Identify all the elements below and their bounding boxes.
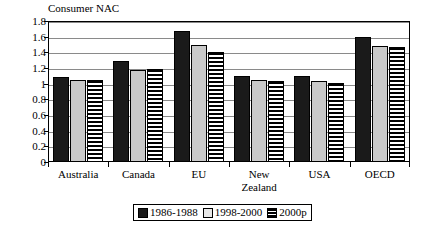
y-axis-tick-label: 0.2 [2, 141, 46, 152]
bar [355, 37, 371, 162]
legend-swatch-icon [267, 208, 277, 218]
bar [130, 70, 146, 162]
legend-label: 1998-2000 [215, 206, 263, 219]
bar-group [108, 21, 168, 162]
bar [251, 80, 267, 162]
bar [70, 80, 86, 162]
legend-label: 1986-1988 [150, 206, 198, 219]
category-label-line: Zealand [229, 181, 289, 194]
x-axis-tick-mark [409, 162, 410, 167]
x-axis-category-label: OECD [350, 168, 410, 181]
bar [147, 69, 163, 162]
bar [294, 76, 310, 162]
chart-title: Consumer NAC [48, 2, 119, 15]
x-axis-tick-mark [229, 162, 230, 167]
category-label-line: New [229, 168, 289, 181]
y-axis-tick-label: 0.8 [2, 94, 46, 105]
y-axis-tick-label: 0.4 [2, 125, 46, 136]
y-axis-tick-label: 1.8 [2, 16, 46, 27]
legend-entry: 1986-1988 [138, 206, 198, 219]
bar [191, 45, 207, 162]
x-axis-tick-mark [169, 162, 170, 167]
legend-swatch-icon [138, 208, 148, 218]
bar [53, 77, 69, 162]
bar [389, 47, 405, 162]
category-label-line: Australia [48, 168, 108, 181]
bar-group [48, 21, 108, 162]
x-axis-category-label: Canada [108, 168, 168, 181]
x-axis-labels: AustraliaCanadaEUNewZealandUSAOECD [48, 168, 410, 202]
y-axis-tick-label: 0 [2, 157, 46, 168]
bar [372, 46, 388, 162]
x-axis-tick-mark [108, 162, 109, 167]
y-axis-tick-label: 0.6 [2, 110, 46, 121]
y-axis-tick-label: 1.4 [2, 47, 46, 58]
x-axis-category-label: NewZealand [229, 168, 289, 194]
x-axis-category-label: Australia [48, 168, 108, 181]
x-axis-tick-mark [350, 162, 351, 167]
bar [328, 83, 344, 162]
x-axis-tick-mark [48, 162, 49, 167]
chart-legend: 1986-19881998-20002000p [133, 204, 312, 221]
category-label-line: Canada [108, 168, 168, 181]
bar [87, 80, 103, 162]
bar [113, 61, 129, 162]
y-axis-tick-label: 1.6 [2, 31, 46, 42]
bar [311, 81, 327, 162]
x-axis-category-label: USA [289, 168, 349, 181]
legend-entry: 1998-2000 [203, 206, 263, 219]
consumer-nac-bar-chart: Consumer NAC 1.81.61.41.210.80.60.40.20 … [0, 0, 427, 239]
y-axis-tick-label: 1 [2, 78, 46, 89]
bar [208, 52, 224, 162]
x-axis-tick-mark [289, 162, 290, 167]
category-label-line: EU [169, 168, 229, 181]
x-axis-ticks [48, 162, 410, 167]
legend-label: 2000p [279, 206, 307, 219]
bar [268, 81, 284, 162]
bar [174, 31, 190, 162]
category-label-line: OECD [350, 168, 410, 181]
bar-group [289, 21, 349, 162]
bar [234, 76, 250, 162]
y-axis-tick-label: 1.2 [2, 63, 46, 74]
legend-swatch-icon [203, 208, 213, 218]
legend-entry: 2000p [267, 206, 307, 219]
x-axis-category-label: EU [169, 168, 229, 181]
y-axis: 1.81.61.41.210.80.60.40.20 [0, 21, 46, 162]
bar-group [229, 21, 289, 162]
category-label-line: USA [289, 168, 349, 181]
bar-group [350, 21, 410, 162]
bars-layer [48, 21, 410, 162]
bar-group [169, 21, 229, 162]
